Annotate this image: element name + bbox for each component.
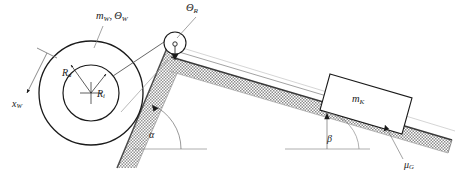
label-mug-sub: G <box>409 163 414 170</box>
label-mw-text: m <box>96 10 104 21</box>
label-wheel-mass-inertia: mW, ΘW <box>96 11 128 23</box>
label-thetaw-sub: W <box>122 15 128 23</box>
label-ri-sub: i <box>103 92 105 99</box>
diagram-canvas: mW, ΘW ΘR Ra Ri xW α β mK μG <box>0 0 463 182</box>
label-ra-sub: a <box>68 71 71 78</box>
label-inner-radius: Ri <box>97 89 105 100</box>
label-outer-radius: Ra <box>62 68 72 79</box>
label-angle-alpha: α <box>149 130 154 140</box>
label-pulley-inertia: ΘR <box>186 3 198 15</box>
label-angle-beta: β <box>327 134 332 144</box>
diagram-svg <box>0 0 463 182</box>
leader-pulley-label <box>177 17 196 38</box>
label-mk-text: m <box>352 93 360 104</box>
label-thetaw-text: Θ <box>114 10 122 21</box>
label-thetar-sub: R <box>194 7 198 15</box>
label-mk-sub: K <box>360 98 365 106</box>
label-block-mass: mK <box>352 94 364 106</box>
label-wheel-axis: xW <box>12 99 22 110</box>
label-xw-sub: W <box>16 102 22 109</box>
label-friction-coefficient: μG <box>404 160 414 171</box>
label-thetar-text: Θ <box>186 2 194 13</box>
